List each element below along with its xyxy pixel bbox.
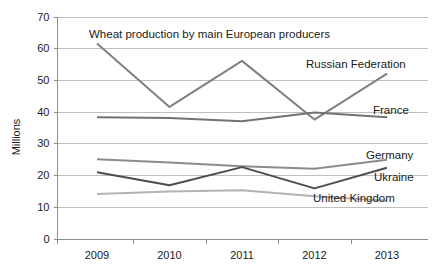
y-tick-label: 0 <box>43 233 49 245</box>
x-tick-label: 2013 <box>375 249 399 261</box>
x-tick-label: 2011 <box>230 249 254 261</box>
series-line-france <box>97 113 387 122</box>
x-tick-labels: 20092010201120122013 <box>85 249 399 261</box>
x-tick-label: 2010 <box>157 249 181 261</box>
gridlines <box>58 18 429 240</box>
series-label-germany: Germany <box>366 149 414 161</box>
y-tick-label: 70 <box>37 11 49 23</box>
series-label-france: France <box>373 104 409 116</box>
y-tick-label: 20 <box>37 169 49 181</box>
y-tick-labels: 010203040506070 <box>37 11 49 245</box>
series-line-russian-federation <box>97 43 387 119</box>
series-labels: Russian FederationFranceGermanyUkraineUn… <box>306 58 414 204</box>
y-axis <box>54 17 58 243</box>
series-label-russian-federation: Russian Federation <box>306 58 406 70</box>
x-axis <box>58 239 429 244</box>
y-axis-title: Millions <box>10 118 22 155</box>
series-label-ukraine: Ukraine <box>374 171 414 183</box>
series-line-ukraine <box>97 167 387 188</box>
y-tick-label: 10 <box>37 201 49 213</box>
y-tick-label: 60 <box>37 42 49 54</box>
x-tick-label: 2009 <box>85 249 109 261</box>
y-tick-label: 50 <box>37 74 49 86</box>
series-label-united-kingdom: United Kingdom <box>313 192 395 204</box>
y-tick-label: 40 <box>37 106 49 118</box>
y-tick-label: 30 <box>37 137 49 149</box>
chart-title: Wheat production by main European produc… <box>89 28 330 40</box>
x-tick-label: 2012 <box>302 249 326 261</box>
line-chart: 010203040506070 20092010201120122013 Rus… <box>0 0 438 276</box>
chart-container: 010203040506070 20092010201120122013 Rus… <box>0 0 438 276</box>
